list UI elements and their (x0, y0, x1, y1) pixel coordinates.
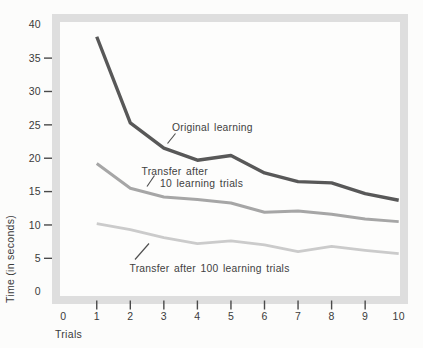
x-tick-label: 9 (362, 310, 368, 322)
x-axis-title: Trials (55, 328, 82, 340)
y-tick-label: 35 (29, 52, 41, 64)
transfer-10-label-line2: 10 learning trials (160, 178, 243, 189)
transfer-100-label: Transfer after 100 learning trials (130, 263, 290, 274)
x-tick-label: 1 (94, 310, 100, 322)
plot-area (60, 22, 400, 296)
x-tick-label: 6 (261, 310, 267, 322)
y-tick-label: 20 (29, 152, 41, 164)
x-tick-label: 7 (295, 310, 301, 322)
x-tick-label: 8 (329, 310, 335, 322)
x-tick-label: 5 (228, 310, 234, 322)
x-tick-label: 2 (127, 310, 133, 322)
y-tick-label: 0 (35, 285, 41, 297)
y-tick-label: 5 (35, 252, 41, 264)
x-tick-label: 4 (194, 310, 200, 322)
y-tick-label: 15 (29, 185, 41, 197)
y-tick-label: 40 (29, 18, 41, 30)
y-axis: 0510152025303540 (29, 18, 52, 297)
y-tick-label: 30 (29, 85, 41, 97)
x-tick-label: 10 (393, 310, 405, 322)
transfer-10-label-line1: Transfer after (142, 166, 209, 177)
learning-curves-figure: 0510152025303540 012345678910 Original l… (0, 0, 423, 348)
x-tick-label: 3 (161, 310, 167, 322)
original-learning-label: Original learning (172, 122, 253, 133)
y-axis-title: Time (in seconds) (4, 215, 16, 303)
y-tick-label: 25 (29, 119, 41, 131)
learning-curves-chart: 0510152025303540 012345678910 Original l… (0, 0, 423, 348)
x-tick-label: 0 (60, 310, 66, 322)
y-tick-label: 10 (29, 219, 41, 231)
